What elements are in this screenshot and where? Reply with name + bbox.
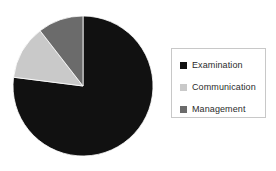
pie-chart-figure: Examination Communication Management <box>0 0 276 171</box>
legend-swatch-management <box>180 106 187 113</box>
legend-label-examination: Examination <box>192 60 243 70</box>
legend-item-examination[interactable]: Examination <box>180 56 265 74</box>
chart-legend: Examination Communication Management <box>171 48 266 118</box>
pie-chart-canvas <box>0 0 170 171</box>
legend-item-management[interactable]: Management <box>180 100 265 118</box>
legend-label-management: Management <box>192 104 246 114</box>
legend-swatch-examination <box>180 62 187 69</box>
legend-swatch-communication <box>180 84 187 91</box>
legend-item-communication[interactable]: Communication <box>180 78 265 96</box>
pie-slice-group <box>13 16 153 156</box>
legend-label-communication: Communication <box>192 82 256 92</box>
